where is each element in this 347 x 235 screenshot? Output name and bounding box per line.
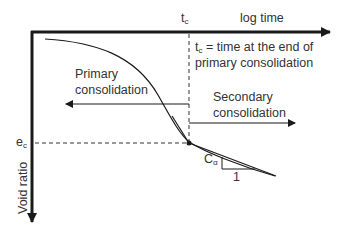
c-alpha-label: Cα <box>204 152 218 170</box>
secondary-label-line1: Secondary <box>213 90 273 104</box>
y-axis-label: Void ratio <box>16 162 30 214</box>
tc-definition-line2: primary consolidation <box>195 56 313 70</box>
x-axis-label: log time <box>240 11 284 25</box>
primary-tangent-line <box>172 116 189 143</box>
slope-run-label: 1 <box>233 170 240 184</box>
secondary-label-line2: consolidation <box>213 106 286 120</box>
primary-label-line1: Primary <box>75 67 118 81</box>
ec-point <box>187 141 192 146</box>
primary-label-line2: consolidation <box>75 83 148 97</box>
diagram-canvas <box>0 0 347 235</box>
slope-triangle <box>222 157 255 169</box>
ec-label: ec <box>16 135 27 153</box>
consolidation-diagram: tc log time tc = time at the end of prim… <box>0 0 347 235</box>
tc-label: tc <box>181 11 188 29</box>
